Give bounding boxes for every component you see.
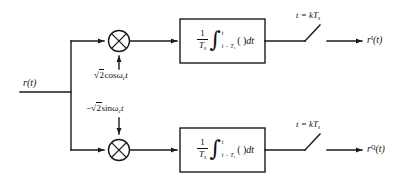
upper-carrier-time: t	[125, 70, 128, 80]
upper-integrator-fraction: 1 Ts	[197, 29, 208, 51]
upper-output-arg: (t)	[373, 34, 382, 45]
upper-carrier-label: √2cosωct	[94, 71, 128, 81]
upper-carrier-function: cos	[104, 70, 116, 80]
upper-integral-symbol: ∫	[209, 31, 220, 49]
upper-integrator-operand: ( )dt	[237, 35, 254, 46]
lower-carrier-time: t	[121, 103, 124, 113]
upper-integral-lower-limit: t − Ts	[222, 40, 236, 50]
upper-carrier-radical: √2	[94, 71, 104, 80]
lower-integrator-numerator: 1	[198, 138, 207, 148]
lower-carrier-label: −√2sinωct	[86, 104, 123, 114]
lower-integral-lower-limit: t − Ts	[222, 149, 236, 159]
lower-carrier-radical: √2	[91, 104, 101, 113]
lower-integral-upper-limit: t	[222, 139, 236, 149]
lower-integral-symbol: ∫	[209, 140, 220, 158]
upper-output-label: rI(t)	[367, 35, 382, 45]
lower-output-label: rQ(t)	[367, 144, 385, 154]
lower-output-arg: (t)	[375, 143, 384, 154]
upper-sampler-label: t = kTs	[296, 11, 320, 21]
lower-integrator-expression: 1 Ts ∫ t t − Ts ( )dt	[197, 138, 254, 160]
upper-integral-upper-limit: t	[222, 30, 236, 40]
upper-integral-limits: t t − Ts	[222, 29, 236, 51]
figure-canvas: r(t) √2cosωct −√2sinωct 1 Ts ∫ t t − Ts …	[0, 0, 396, 184]
lower-integral-limits: t t − Ts	[222, 138, 236, 160]
lower-sampler-label: t = kTs	[296, 120, 320, 130]
lower-integrator-denominator: Ts	[197, 149, 208, 160]
lower-integrator-operand: ( )dt	[237, 144, 254, 155]
lower-integrator-fraction: 1 Ts	[197, 138, 208, 160]
upper-integrator-denominator: Ts	[197, 40, 208, 51]
lower-switch-blade	[305, 134, 320, 150]
upper-integrator-expression: 1 Ts ∫ t t − Ts ( )dt	[197, 29, 254, 51]
upper-switch-blade	[305, 25, 320, 41]
input-label: r(t)	[23, 78, 36, 88]
lower-carrier-function: sin	[102, 103, 113, 113]
upper-integrator-numerator: 1	[198, 29, 207, 39]
